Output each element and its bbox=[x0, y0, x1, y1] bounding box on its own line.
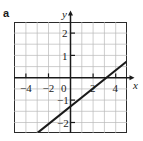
plotted-line bbox=[0, 0, 143, 141]
x-axis-label: x bbox=[133, 80, 138, 91]
ytick-label-1: 1 bbox=[62, 51, 68, 62]
xtick-label-0: 0 bbox=[61, 83, 67, 94]
ytick-label-neg2: −2 bbox=[57, 118, 69, 129]
ytick-label-neg1: −1 bbox=[57, 95, 69, 106]
ytick-label-2: 2 bbox=[62, 28, 68, 39]
xtick-label-neg4: −4 bbox=[20, 83, 32, 94]
xtick-label-2: 2 bbox=[90, 83, 96, 94]
y-axis-label: y bbox=[62, 9, 67, 20]
line-series-1 bbox=[37, 61, 127, 133]
xtick-label-4: 4 bbox=[113, 83, 119, 94]
figure-panel: a bbox=[0, 0, 143, 141]
xtick-label-neg2: −2 bbox=[43, 83, 55, 94]
